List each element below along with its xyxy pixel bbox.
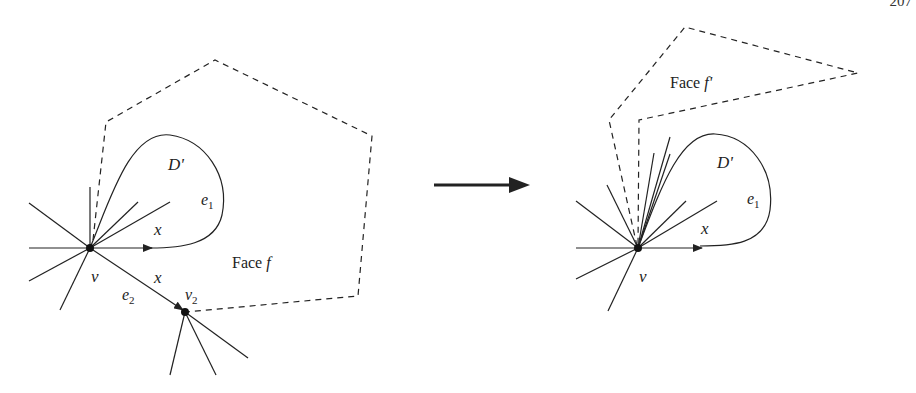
edge-e1-label: e1 [201, 191, 214, 211]
vertex-v-label: v [639, 267, 647, 286]
edge-e1-label: e1 [747, 190, 760, 210]
right-arrow-icon [509, 177, 530, 193]
face-f-boundary [93, 60, 372, 312]
edge-line [576, 248, 638, 279]
edge-line [170, 312, 185, 375]
edge-line [29, 203, 90, 248]
x-label-bottom: x [153, 268, 162, 287]
vertex-v2 [181, 308, 189, 316]
vertex-v [86, 244, 94, 252]
face-f-prime-boundary [609, 27, 858, 246]
x-label: x [700, 219, 709, 238]
region-d-prime-label: D' [716, 153, 733, 172]
vertex-v [634, 244, 642, 252]
region-d-prime-label: D' [167, 155, 184, 174]
x-label-top: x [153, 220, 162, 239]
left-panel [29, 60, 372, 375]
edge-e2 [90, 248, 183, 310]
diagram-canvas: D' e1 x x v e2 v2 Face f Face f' D' e1 x… [0, 0, 916, 393]
edge-line [607, 185, 638, 248]
vertex-v-label: v [91, 267, 99, 286]
face-f-prime-label: Face f' [670, 74, 713, 92]
vertex-v2-label: v2 [185, 286, 198, 306]
edge-line [185, 312, 248, 358]
edge-line [60, 248, 90, 310]
edge-e2-label: e2 [122, 286, 135, 306]
edge-line [185, 312, 216, 375]
edge-line [608, 248, 638, 311]
edge-line [29, 248, 90, 281]
face-f-label: Face f [232, 254, 273, 272]
